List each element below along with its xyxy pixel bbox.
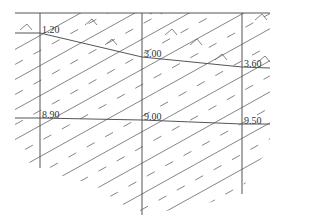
depth-label-middle-lower: 9.00 <box>144 112 162 122</box>
depth-label-left-upper: 1.20 <box>42 25 60 35</box>
depth-label-right-lower: 9.50 <box>244 116 262 126</box>
depth-label-left-lower: 8.90 <box>42 110 60 120</box>
depth-label-right-upper: 3.60 <box>244 59 262 69</box>
depth-label-middle-upper: 3.00 <box>144 49 162 59</box>
